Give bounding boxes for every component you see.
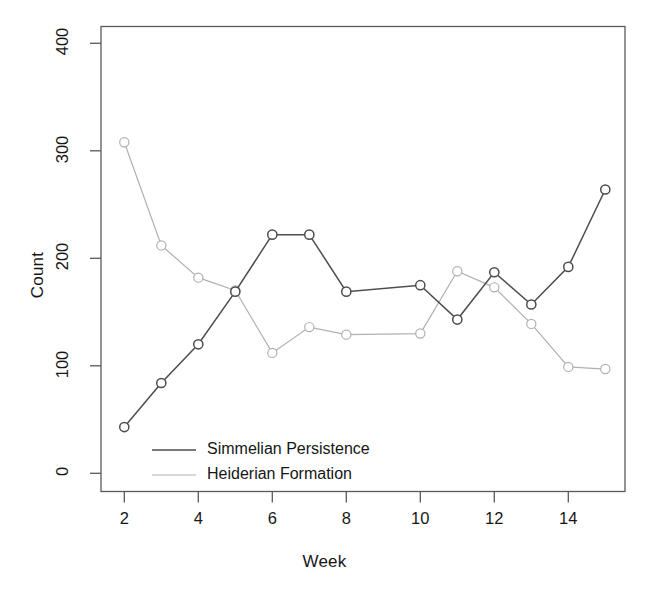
x-tick-label: 2 bbox=[104, 509, 144, 528]
plot-canvas bbox=[0, 0, 649, 597]
data-point-marker bbox=[194, 340, 203, 349]
x-tick-label: 4 bbox=[178, 509, 218, 528]
y-tick-label: 200 bbox=[53, 234, 72, 280]
series-line bbox=[124, 142, 605, 369]
data-point-marker bbox=[157, 378, 166, 387]
x-tick-label: 12 bbox=[474, 509, 514, 528]
series-simmelian-persistence bbox=[120, 185, 610, 432]
y-axis-title: Count bbox=[28, 215, 48, 335]
data-point-marker bbox=[305, 323, 314, 332]
y-tick-label: 300 bbox=[53, 126, 72, 172]
chart-figure: Week Count 2468101214 0100200300400 Simm… bbox=[0, 0, 649, 597]
data-point-marker bbox=[453, 315, 462, 324]
data-point-marker bbox=[231, 287, 240, 296]
data-point-marker bbox=[490, 283, 499, 292]
x-axis-ticks bbox=[124, 492, 568, 503]
x-tick-label: 6 bbox=[252, 509, 292, 528]
data-point-marker bbox=[453, 267, 462, 276]
y-axis-ticks bbox=[90, 43, 101, 473]
x-axis-title: Week bbox=[0, 552, 649, 572]
data-point-marker bbox=[268, 348, 277, 357]
data-point-marker bbox=[342, 287, 351, 296]
data-point-marker bbox=[416, 281, 425, 290]
y-tick-label: 0 bbox=[53, 449, 72, 495]
data-point-marker bbox=[527, 300, 536, 309]
x-tick-label: 14 bbox=[548, 509, 588, 528]
data-point-marker bbox=[601, 185, 610, 194]
data-point-marker bbox=[268, 230, 277, 239]
data-point-marker bbox=[120, 422, 129, 431]
data-point-marker bbox=[305, 230, 314, 239]
data-point-marker bbox=[527, 319, 536, 328]
x-tick-label: 8 bbox=[326, 509, 366, 528]
legend-sample-lines bbox=[152, 450, 196, 475]
y-tick-label: 400 bbox=[53, 19, 72, 65]
data-point-marker bbox=[157, 241, 166, 250]
data-point-marker bbox=[490, 268, 499, 277]
data-series-group bbox=[120, 138, 610, 432]
data-point-marker bbox=[194, 273, 203, 282]
data-point-marker bbox=[601, 364, 610, 373]
data-point-marker bbox=[416, 329, 425, 338]
data-point-marker bbox=[342, 330, 351, 339]
plot-box bbox=[101, 27, 625, 492]
x-tick-label: 10 bbox=[400, 509, 440, 528]
data-point-marker bbox=[564, 362, 573, 371]
data-point-marker bbox=[120, 138, 129, 147]
legend-label: Simmelian Persistence bbox=[207, 440, 370, 458]
data-point-marker bbox=[564, 262, 573, 271]
series-heiderian-formation bbox=[120, 138, 610, 374]
legend-label: Heiderian Formation bbox=[207, 465, 352, 483]
y-tick-label: 100 bbox=[53, 341, 72, 387]
